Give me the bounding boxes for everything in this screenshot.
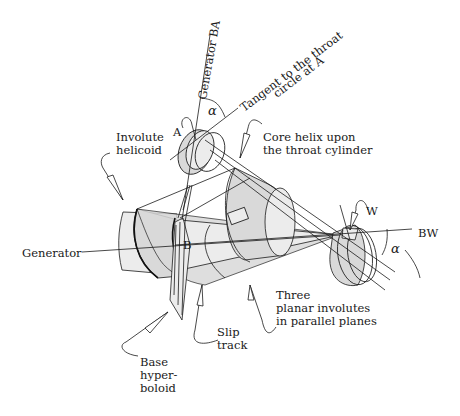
label-base-3: boloid: [140, 381, 177, 395]
label-base-1: Base: [140, 355, 168, 369]
label-tangent-1: Tangent to the throat: [237, 28, 345, 114]
label-three-1: Three: [276, 288, 310, 302]
label-point-b: B: [183, 238, 191, 252]
label-three-2: planar involutes: [276, 301, 370, 315]
label-slip-2: track: [217, 338, 248, 352]
label-generator-ba: Generator BA: [195, 19, 223, 101]
label-core-1: Core helix upon: [263, 130, 356, 144]
diagram-canvas: Generator BA Tangent to the throat circl…: [0, 0, 460, 416]
label-alpha-top: α: [208, 103, 217, 118]
label-point-w: W: [366, 204, 378, 218]
label-generator: Generator: [22, 246, 82, 260]
label-core-2: the throat cylinder: [263, 143, 373, 157]
label-involute-1: Involute: [116, 130, 164, 144]
label-alpha-right: α: [391, 241, 400, 256]
label-point-a: A: [172, 125, 182, 139]
label-involute-2: helicoid: [116, 143, 163, 157]
label-bw: BW: [418, 226, 438, 240]
throat-cylinder-middle: [225, 168, 295, 262]
involute-helicoid-diagram: Generator BA Tangent to the throat circl…: [0, 0, 460, 416]
label-three-3: in parallel planes: [276, 314, 377, 328]
label-base-2: hyper-: [140, 368, 178, 382]
label-slip-1: Slip: [217, 325, 240, 339]
